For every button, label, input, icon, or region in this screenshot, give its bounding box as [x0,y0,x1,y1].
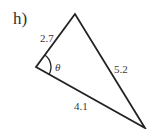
side-label-right: 5.2 [114,63,128,75]
side-label-top-left: 2.7 [40,32,54,44]
angle-arc [45,55,51,74]
side-label-bottom: 4.1 [74,100,88,112]
angle-label-theta: θ [55,61,61,73]
problem-label: h) [13,9,27,28]
triangle-diagram: h) 2.7 5.2 4.1 θ [0,0,150,129]
